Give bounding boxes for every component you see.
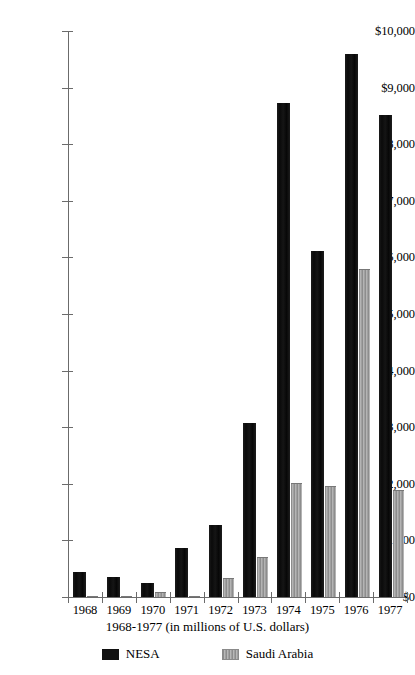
legend-label: Saudi Arabia	[246, 647, 314, 661]
legend-item-nesa: NESA	[102, 647, 160, 661]
plot-area	[68, 31, 407, 597]
bar-nesa-1970	[141, 583, 154, 597]
bar-chart: $0$1,000$2,000$3,000$4,000$5,000$6,000$7…	[0, 0, 415, 675]
bar-nesa-1972	[209, 525, 222, 597]
legend-swatch-icon	[102, 649, 119, 660]
bar-nesa-1969	[107, 577, 120, 597]
bar-nesa-1971	[175, 548, 188, 597]
bar-saudi-arabia-1970	[155, 592, 166, 597]
bar-nesa-1976	[345, 54, 358, 597]
bar-saudi-arabia-1974	[291, 483, 302, 597]
bar-nesa-1968	[73, 572, 86, 597]
bar-saudi-arabia-1975	[325, 486, 336, 597]
bar-saudi-arabia-1972	[223, 578, 234, 597]
bar-nesa-1977	[379, 115, 392, 597]
x-tick	[407, 592, 408, 603]
legend-swatch-icon	[222, 649, 239, 660]
x-axis-caption: 1968-1977 (in millions of U.S. dollars)	[0, 619, 415, 635]
bar-nesa-1974	[277, 103, 290, 597]
chart-legend: NESASaudi Arabia	[0, 647, 415, 661]
bar-saudi-arabia-1968	[87, 596, 98, 597]
bar-nesa-1975	[311, 251, 324, 597]
x-tick-label: 1977	[370, 603, 410, 618]
bar-nesa-1973	[243, 423, 256, 597]
bar-saudi-arabia-1973	[257, 557, 268, 597]
bar-saudi-arabia-1969	[121, 596, 132, 597]
bar-saudi-arabia-1977	[393, 490, 404, 597]
legend-label: NESA	[126, 647, 160, 661]
bar-saudi-arabia-1971	[189, 596, 200, 597]
legend-item-saudi-arabia: Saudi Arabia	[222, 647, 314, 661]
bar-saudi-arabia-1976	[359, 269, 370, 597]
